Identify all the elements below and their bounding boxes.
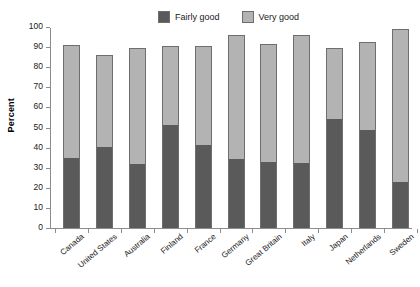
- bar-segment-fairly-good[interactable]: [228, 159, 245, 228]
- bar-segment-fairly-good[interactable]: [359, 130, 376, 228]
- y-axis-tick: 100: [46, 27, 50, 28]
- x-axis-label-finland: Finland: [159, 232, 185, 256]
- x-axis-label-italy: Italy: [300, 232, 317, 248]
- y-axis-tick: 70: [46, 87, 50, 88]
- bar-segment-fairly-good[interactable]: [260, 162, 277, 228]
- bar-segment-fairly-good[interactable]: [293, 163, 310, 228]
- bar-canada[interactable]: [63, 45, 80, 228]
- bar-segment-very-good[interactable]: [260, 44, 277, 162]
- bar-great-britain[interactable]: [260, 44, 277, 228]
- legend-entry-fairly-good: Fairly good: [158, 11, 220, 23]
- y-axis-tick: 20: [46, 188, 50, 189]
- legend-label-fairly-good: Fairly good: [175, 12, 220, 22]
- x-axis-label-japan: Japan: [327, 232, 349, 253]
- legend-label-very-good: Very good: [259, 12, 300, 22]
- x-axis-label-netherlands: Netherlands: [344, 232, 383, 267]
- bar-france[interactable]: [195, 46, 212, 228]
- stacked-bar-chart: Fairly good Very good Percent 0102030405…: [0, 0, 420, 287]
- bar-segment-very-good[interactable]: [228, 35, 245, 159]
- bar-segment-fairly-good[interactable]: [195, 145, 212, 228]
- bar-segment-very-good[interactable]: [392, 29, 409, 182]
- bar-segment-very-good[interactable]: [326, 48, 343, 119]
- bar-segment-fairly-good[interactable]: [392, 182, 409, 228]
- bar-italy[interactable]: [293, 35, 310, 228]
- bar-segment-very-good[interactable]: [96, 55, 113, 146]
- bar-segment-very-good[interactable]: [162, 46, 179, 124]
- bar-segment-fairly-good[interactable]: [63, 158, 80, 228]
- legend-swatch-very-good: [242, 11, 254, 23]
- x-axis-label-sweden: Sweden: [387, 232, 415, 257]
- bar-united-states[interactable]: [96, 55, 113, 228]
- x-axis-tick: [417, 229, 418, 233]
- y-axis-tick: 80: [46, 67, 50, 68]
- y-axis-tick: 0: [46, 228, 50, 229]
- bar-segment-fairly-good[interactable]: [96, 147, 113, 228]
- y-axis-tick-label: 0: [38, 222, 43, 233]
- bar-segment-very-good[interactable]: [63, 45, 80, 158]
- bar-netherlands[interactable]: [359, 42, 376, 228]
- bar-segment-fairly-good[interactable]: [326, 119, 343, 228]
- y-axis-tick: 40: [46, 148, 50, 149]
- bar-sweden[interactable]: [392, 29, 409, 228]
- y-axis-tick: 50: [46, 128, 50, 129]
- y-axis-tick-label: 100: [29, 21, 43, 32]
- bar-segment-very-good[interactable]: [359, 42, 376, 129]
- bar-segment-very-good[interactable]: [195, 46, 212, 144]
- y-axis-tick: 30: [46, 168, 50, 169]
- y-axis-tick-label: 70: [34, 81, 43, 92]
- y-axis-tick-label: 60: [34, 101, 43, 112]
- bar-australia[interactable]: [129, 48, 146, 228]
- y-axis-line: [50, 28, 51, 229]
- bar-segment-very-good[interactable]: [129, 48, 146, 164]
- x-axis-label-germany: Germany: [220, 232, 251, 260]
- bar-segment-very-good[interactable]: [293, 35, 310, 163]
- x-axis-line: [50, 228, 412, 229]
- plot-area: 0102030405060708090100: [50, 28, 412, 229]
- bar-segment-fairly-good[interactable]: [162, 125, 179, 229]
- y-axis-tick-label: 30: [34, 162, 43, 173]
- bar-germany[interactable]: [228, 35, 245, 228]
- chart-legend: Fairly good Very good: [158, 11, 299, 23]
- y-axis-title: Percent: [6, 98, 20, 132]
- x-axis-labels: CanadaUnited StatesAustraliaFinlandFranc…: [50, 232, 412, 287]
- y-axis-tick-label: 20: [34, 182, 43, 193]
- y-axis-tick-label: 10: [34, 202, 43, 213]
- y-axis-tick-label: 80: [34, 61, 43, 72]
- bar-finland[interactable]: [162, 46, 179, 228]
- legend-swatch-fairly-good: [158, 11, 170, 23]
- x-axis-label-canada: Canada: [59, 232, 86, 257]
- y-axis-tick: 60: [46, 107, 50, 108]
- bar-japan[interactable]: [326, 48, 343, 228]
- y-axis-tick: 10: [46, 208, 50, 209]
- legend-entry-very-good: Very good: [242, 11, 300, 23]
- y-axis-tick-label: 50: [34, 122, 43, 133]
- bar-segment-fairly-good[interactable]: [129, 164, 146, 228]
- y-axis-tick-label: 90: [34, 41, 43, 52]
- x-axis-label-france: France: [193, 232, 218, 255]
- x-axis-label-australia: Australia: [122, 232, 152, 259]
- y-axis-tick: 90: [46, 47, 50, 48]
- y-axis-tick-label: 40: [34, 142, 43, 153]
